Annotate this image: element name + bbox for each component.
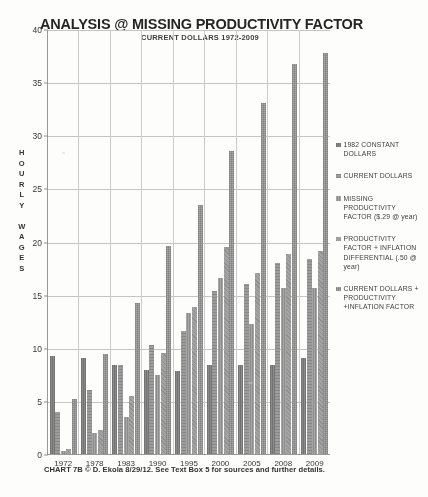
bar-group-2009: 2009 — [300, 30, 330, 454]
y-axis-tick-label: 35 — [33, 78, 42, 88]
legend-item-3: PRODUCTIVITY FACTOR + INFLATION DIFFEREN… — [336, 234, 426, 271]
bar-2009-series-3 — [318, 251, 323, 454]
bar-2000-series-2 — [218, 278, 223, 454]
bar-group-1983: 1983 — [111, 30, 142, 454]
y-axis-tick-label: 5 — [37, 397, 42, 407]
bar-2009-series-1 — [307, 259, 312, 455]
bar-2000-series-4 — [229, 151, 234, 454]
bar-1983-series-1 — [118, 365, 123, 454]
bar-2008-series-0 — [270, 365, 275, 454]
bar-1990-series-1 — [149, 345, 154, 454]
bar-1972-series-2 — [61, 451, 66, 454]
y-axis-tick-mark — [44, 455, 48, 456]
bar-2008-series-2 — [281, 288, 286, 454]
bar-1995-series-4 — [198, 205, 203, 454]
y-axis-tick-label: 40 — [33, 25, 42, 35]
bar-1995-series-3 — [192, 307, 197, 454]
y-axis-tick-label: 30 — [33, 131, 42, 141]
bar-2005-series-2 — [249, 324, 254, 454]
legend-item-2: MISSING PRODUCTIVITY FACTOR ($.29 @ year… — [336, 194, 426, 222]
bar-2000-series-3 — [224, 247, 229, 454]
bar-2008-series-3 — [286, 254, 291, 454]
y-axis-tick-label: 0 — [37, 450, 42, 460]
y-axis-tick-label: 15 — [33, 291, 42, 301]
legend-item-4: CURRENT DOLLARS + PRODUCTIVITY +INFLATIO… — [336, 284, 426, 312]
bar-1972-series-3 — [66, 449, 71, 454]
bar-1990-series-4 — [166, 246, 171, 454]
bar-group-1978: 1978 — [79, 30, 110, 454]
bar-2008-series-1 — [275, 263, 280, 454]
bar-2005-series-0 — [238, 365, 243, 454]
legend-label: CURRENT DOLLARS + PRODUCTIVITY +INFLATIO… — [344, 284, 427, 312]
bar-1978-series-4 — [103, 354, 108, 454]
legend-item-0: 1982 CONSTANT DOLLARS — [336, 140, 426, 158]
y-axis-label: HOURLYWAGES — [16, 148, 28, 274]
bar-1990-series-3 — [161, 353, 166, 454]
legend-swatch-icon — [336, 143, 341, 148]
legend-swatch-icon — [336, 174, 341, 179]
chart-page: ANALYSIS @ MISSING PRODUCTIVITY FACTOR C… — [0, 0, 428, 497]
legend-label: 1982 CONSTANT DOLLARS — [344, 140, 427, 158]
bar-2005-series-4 — [261, 103, 266, 454]
bar-1995-series-1 — [181, 331, 186, 454]
bar-2009-series-4 — [323, 53, 328, 454]
bar-group-2005: 2005 — [237, 30, 268, 454]
bar-group-1990: 1990 — [142, 30, 173, 454]
scan-artifact — [148, 352, 152, 354]
bar-2000-series-0 — [207, 365, 212, 454]
bar-1983-series-4 — [135, 303, 140, 454]
bar-2008-series-4 — [292, 64, 297, 454]
y-axis-tick-label: 25 — [33, 184, 42, 194]
legend-label: MISSING PRODUCTIVITY FACTOR ($.29 @ year… — [344, 194, 427, 222]
chart-legend: 1982 CONSTANT DOLLARSCURRENT DOLLARSMISS… — [336, 140, 426, 325]
chart-footer-caption: CHART 7B © D. Ekola 8/29/12. See Text Bo… — [44, 465, 325, 474]
bar-1983-series-2 — [124, 417, 129, 454]
bar-1972-series-0 — [50, 356, 55, 454]
bar-1983-series-3 — [129, 396, 134, 454]
bar-1990-series-2 — [155, 375, 160, 454]
bar-1978-series-0 — [81, 358, 86, 454]
bar-group-1995: 1995 — [174, 30, 205, 454]
scan-artifact — [248, 382, 253, 384]
legend-swatch-icon — [336, 196, 341, 201]
bar-1978-series-2 — [92, 433, 97, 454]
bar-2009-series-2 — [312, 288, 317, 454]
bar-1978-series-3 — [98, 430, 103, 454]
bar-2005-series-1 — [244, 284, 249, 454]
bar-group-2000: 2000 — [205, 30, 236, 454]
legend-item-1: CURRENT DOLLARS — [336, 171, 426, 180]
bar-1983-series-0 — [112, 365, 117, 454]
y-axis-tick-label: 10 — [33, 344, 42, 354]
bar-1995-series-2 — [186, 313, 191, 454]
legend-swatch-icon — [336, 237, 341, 242]
scan-artifact — [62, 152, 65, 154]
bar-1972-series-1 — [55, 412, 60, 455]
plot-area: 0510152025303540 19721978198319901995200… — [47, 30, 330, 455]
bar-group-1972: 1972 — [48, 30, 79, 454]
bar-2000-series-1 — [212, 291, 217, 454]
bar-group-2008: 2008 — [268, 30, 299, 454]
bar-1995-series-0 — [175, 371, 180, 454]
legend-label: PRODUCTIVITY FACTOR + INFLATION DIFFEREN… — [344, 234, 427, 271]
legend-label: CURRENT DOLLARS — [344, 171, 413, 180]
bar-1990-series-0 — [144, 370, 149, 454]
bar-2005-series-3 — [255, 273, 260, 454]
bar-1978-series-1 — [87, 390, 92, 454]
bar-1972-series-4 — [72, 399, 77, 454]
legend-swatch-icon — [336, 287, 341, 292]
y-axis-tick-label: 20 — [33, 238, 42, 248]
bar-groups: 197219781983199019952000200520082009 — [48, 30, 330, 454]
bar-2009-series-0 — [301, 358, 306, 454]
